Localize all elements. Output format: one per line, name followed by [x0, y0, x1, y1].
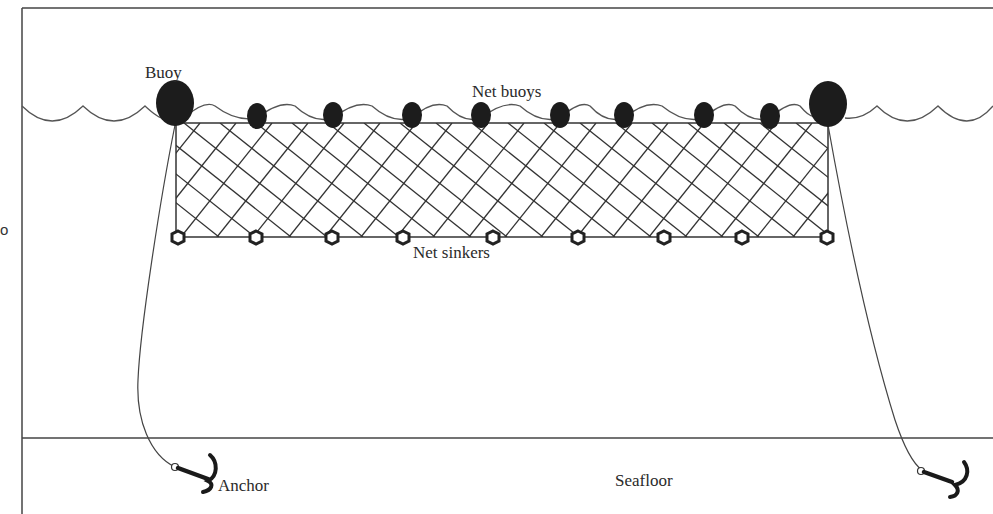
sinker-icon: [172, 231, 184, 244]
net-buoy: [760, 103, 780, 129]
sinker-icon: [572, 231, 584, 244]
net-buoy: [471, 102, 491, 128]
right-anchor-icon: [918, 462, 968, 497]
net-buoy: [247, 103, 267, 129]
sinker-icon: [397, 231, 409, 244]
anchor-label: Anchor: [218, 476, 269, 495]
left-end-buoy: [156, 80, 194, 126]
net-buoys: [247, 102, 780, 129]
right-anchor-rope: [828, 125, 922, 470]
left-anchor-icon: [172, 455, 216, 492]
sinker-icon: [326, 231, 338, 244]
net-buoy: [402, 102, 422, 128]
net-buoys-label: Net buoys: [472, 82, 541, 101]
cropped-left-label: o: [0, 221, 8, 238]
right-end-buoy: [809, 81, 847, 127]
net-buoy: [323, 102, 343, 128]
sinker-icon: [250, 231, 262, 244]
seafloor-label: Seafloor: [615, 471, 673, 490]
net-buoy: [614, 102, 634, 128]
left-anchor-rope: [138, 125, 175, 467]
net-buoy: [550, 102, 570, 128]
buoy-label: Buoy: [145, 63, 182, 82]
net-buoy: [694, 102, 714, 128]
net-mesh: [40, 123, 939, 237]
diagram-canvas: Buoy Net buoys Net sinkers Anchor Seaflo…: [0, 0, 993, 514]
sinker-icon: [736, 231, 748, 244]
net-sinkers-label: Net sinkers: [413, 243, 490, 262]
gillnet-diagram: o: [0, 0, 993, 514]
sinker-icon: [821, 231, 833, 244]
sinker-icon: [658, 231, 670, 244]
